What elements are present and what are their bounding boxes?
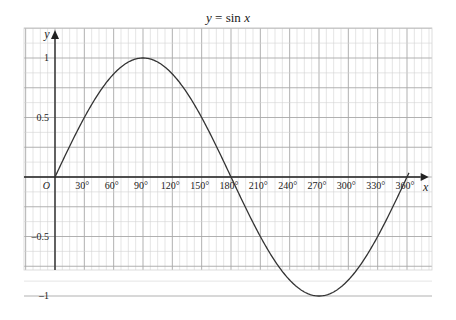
tick-labels: 30°60°90°120°150°180°210°240°270°300°330… xyxy=(31,27,430,301)
y-axis-arrow-icon xyxy=(51,30,59,39)
grid xyxy=(24,28,432,296)
x-tick-label: 30° xyxy=(75,180,89,191)
y-axis-label: y xyxy=(43,27,50,41)
x-tick-label: 60° xyxy=(105,180,119,191)
y-tick-label: –1 xyxy=(38,290,49,301)
x-tick-label: 210° xyxy=(249,180,268,191)
x-tick-label: 150° xyxy=(190,180,209,191)
origin-label: O xyxy=(43,180,50,191)
grid-border xyxy=(24,28,432,270)
x-tick-label: 270° xyxy=(308,180,327,191)
x-tick-label: 300° xyxy=(337,180,356,191)
x-tick-label: 330° xyxy=(366,180,385,191)
x-tick-label: 240° xyxy=(278,180,297,191)
x-axis-label: x xyxy=(422,180,429,194)
y-tick-label: –0.5 xyxy=(31,231,50,242)
y-tick-label: 1 xyxy=(44,52,49,63)
x-tick-label: 90° xyxy=(134,180,148,191)
x-tick-label: 120° xyxy=(161,180,180,191)
y-tick-label: 0.5 xyxy=(37,112,50,123)
sine-chart: 30°60°90°120°150°180°210°240°270°300°330… xyxy=(0,0,456,320)
